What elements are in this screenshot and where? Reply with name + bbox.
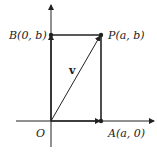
label-v: v bbox=[68, 64, 76, 77]
label-B: B(0, b) bbox=[8, 29, 47, 42]
point-A bbox=[99, 119, 103, 123]
point-B bbox=[49, 33, 53, 37]
point-P bbox=[99, 33, 103, 37]
vector-rectangle-diagram: B(0, b) P(a, b) A(a, 0) O v bbox=[0, 0, 157, 157]
label-O: O bbox=[36, 127, 45, 140]
label-A: A(a, 0) bbox=[107, 127, 145, 140]
diagram-canvas: B(0, b) P(a, b) A(a, 0) O v bbox=[0, 0, 157, 157]
vector-v bbox=[51, 36, 100, 121]
label-P: P(a, b) bbox=[107, 29, 145, 42]
